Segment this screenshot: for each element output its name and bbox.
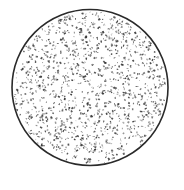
speckled-circle-diagram [0,0,184,190]
